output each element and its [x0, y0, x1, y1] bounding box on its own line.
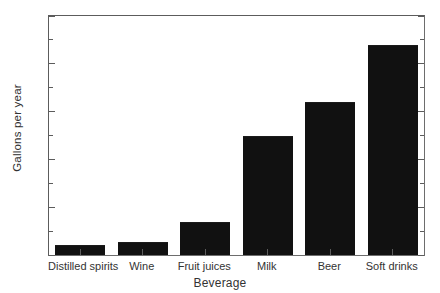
x-axis-tick-label: Beer: [298, 260, 361, 272]
x-axis-tick: [142, 249, 143, 255]
y-axis-major-tick: [49, 16, 55, 17]
x-axis-tick: [330, 249, 331, 255]
x-axis-tick: [205, 249, 206, 255]
y-axis-major-tick-right: [418, 16, 424, 17]
y-axis-major-tick-right: [418, 111, 424, 112]
bar: [243, 136, 293, 256]
y-axis-minor-tick-right: [420, 183, 424, 184]
y-axis-minor-tick-right: [420, 39, 424, 40]
x-axis-tick-label: Milk: [236, 260, 299, 272]
y-axis-minor-tick-right: [420, 231, 424, 232]
x-axis-tick: [392, 249, 393, 255]
bar: [368, 45, 418, 255]
y-axis-minor-tick: [49, 183, 53, 184]
y-axis-major-tick-right: [418, 63, 424, 64]
y-axis-major-tick-right: [418, 159, 424, 160]
y-axis-minor-tick-right: [420, 87, 424, 88]
x-axis-title: Beverage: [0, 276, 440, 290]
y-axis-minor-tick: [49, 231, 53, 232]
y-axis-major-tick: [49, 255, 55, 256]
y-axis-minor-tick: [49, 39, 53, 40]
y-axis-minor-tick: [49, 87, 53, 88]
bar-chart-figure: Gallons per year 01020304050 Beverage Di…: [0, 0, 440, 293]
x-axis-tick: [80, 249, 81, 255]
y-axis-major-tick-right: [418, 207, 424, 208]
y-axis-title: Gallons per year: [11, 48, 23, 208]
plot-area: 01020304050: [48, 15, 425, 256]
y-axis-major-tick: [49, 63, 55, 64]
y-axis-minor-tick-right: [420, 135, 424, 136]
x-axis-tick-label: Distilled spirits: [48, 260, 111, 272]
y-axis-minor-tick: [49, 135, 53, 136]
y-axis-major-tick: [49, 207, 55, 208]
x-axis-tick: [267, 249, 268, 255]
y-axis-major-tick: [49, 111, 55, 112]
x-axis-tick-label: Fruit juices: [173, 260, 236, 272]
y-axis-major-tick: [49, 159, 55, 160]
x-axis-tick-label: Wine: [111, 260, 174, 272]
y-axis-major-tick-right: [418, 255, 424, 256]
x-axis-tick-label: Soft drinks: [361, 260, 424, 272]
bar: [305, 102, 355, 255]
